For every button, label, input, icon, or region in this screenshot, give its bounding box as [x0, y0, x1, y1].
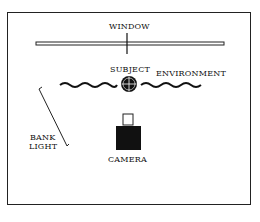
subject-icon [121, 76, 137, 92]
bank-light-label-line1: BANK [30, 133, 55, 142]
window-label: WINDOW [109, 22, 150, 31]
window-icon [36, 33, 224, 54]
diagram-canvas [0, 0, 260, 222]
camera-label: CAMERA [108, 155, 147, 164]
bank-light-label-line2: LIGHT [29, 142, 57, 151]
camera-icon [116, 114, 141, 150]
environment-label: ENVIRONMENT [156, 69, 226, 78]
subject-label: SUBJECT [110, 65, 150, 74]
